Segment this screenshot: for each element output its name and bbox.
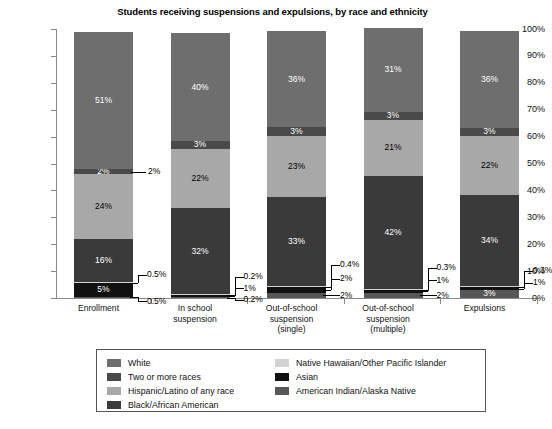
legend-label: American Indian/Alaska Native	[296, 386, 416, 396]
bar-stack[interactable]: 33%23%3%36%	[267, 29, 326, 298]
bar-segment[interactable]	[460, 195, 519, 286]
bar-segment[interactable]	[74, 169, 133, 174]
legend-label: Asian	[296, 372, 318, 382]
bar-segment[interactable]	[74, 239, 133, 282]
bar-segment[interactable]	[364, 293, 423, 298]
x-axis-label-line: suspension	[344, 314, 433, 325]
callout-leader-line	[323, 287, 331, 288]
x-axis-label-line: Enrollment	[54, 303, 143, 314]
bar-segment[interactable]	[364, 176, 423, 289]
bar-segment[interactable]	[267, 197, 326, 286]
y-axis-tick-mark	[51, 217, 56, 218]
bar-segment[interactable]	[364, 28, 423, 111]
legend-item[interactable]: Black/African American	[107, 398, 218, 411]
legend-item[interactable]: Hispanic/Latino of any race	[107, 384, 234, 397]
legend-color-swatch	[275, 387, 289, 395]
bar-segment[interactable]	[460, 287, 519, 290]
y-axis-tick-mark	[51, 83, 56, 84]
bar-segment[interactable]	[267, 286, 326, 287]
x-axis-label-line: suspension	[247, 314, 336, 325]
x-axis-label: Out-of-schoolsuspension(multiple)	[344, 303, 433, 335]
bar-stack[interactable]: 5%16%24%2%51%	[74, 29, 133, 298]
bar-segment[interactable]	[74, 283, 133, 296]
bar-segment[interactable]	[74, 174, 133, 239]
bar-segment[interactable]	[460, 290, 519, 298]
callout-leader-line	[331, 279, 340, 280]
callout-leader-line	[428, 280, 429, 291]
y-axis-line	[56, 29, 57, 299]
bar-segment[interactable]	[74, 32, 133, 169]
legend-item[interactable]: Asian	[275, 370, 318, 383]
bar-segment[interactable]	[364, 290, 423, 293]
bar-segment[interactable]	[267, 287, 326, 292]
bar-segment[interactable]	[267, 31, 326, 128]
bar-segment[interactable]	[460, 31, 519, 128]
x-axis-label-line: In school	[151, 303, 240, 314]
bar-stack[interactable]: 3%34%22%3%36%	[460, 29, 519, 298]
bar-segment[interactable]	[74, 282, 133, 283]
callout-leader-line	[420, 291, 428, 292]
bar-segment[interactable]	[171, 33, 230, 141]
callout-leader-line	[138, 275, 147, 276]
legend-item[interactable]: White	[107, 356, 151, 369]
bar-segment[interactable]	[267, 136, 326, 198]
legend-item[interactable]: Native Hawaiian/Other Pacific Islander	[275, 356, 446, 369]
x-axis-label: Out-of-schoolsuspension(single)	[247, 303, 336, 335]
bar-segment[interactable]	[171, 208, 230, 294]
bar-segment-callout-label: 2%	[437, 291, 449, 300]
bar-stack[interactable]: 32%22%3%40%	[171, 29, 230, 298]
legend-label: Native Hawaiian/Other Pacific Islander	[296, 358, 446, 368]
callout-leader-line	[323, 295, 331, 296]
bar-segment[interactable]	[460, 128, 519, 136]
y-axis-tick-mark	[51, 56, 56, 57]
callout-leader-line	[235, 288, 244, 289]
y-axis-tick-mark	[51, 137, 56, 138]
callout-leader-line	[420, 295, 428, 296]
y-axis-tick-mark	[51, 190, 56, 191]
bar-segment[interactable]	[460, 136, 519, 195]
bar-segment-callout-label: 0.3%	[437, 263, 456, 272]
legend-label: Black/African American	[128, 400, 218, 410]
legend-label: Two or more races	[128, 372, 201, 382]
callout-leader-line	[138, 275, 139, 283]
bar-segment[interactable]	[171, 149, 230, 208]
callout-leader-line	[524, 283, 525, 289]
chart-legend: WhiteTwo or more racesHispanic/Latino of…	[96, 349, 486, 412]
bar-segment[interactable]	[267, 127, 326, 135]
bar-segment[interactable]	[364, 112, 423, 120]
callout-leader-line	[428, 295, 429, 296]
y-axis-tick-mark	[51, 110, 56, 111]
legend-item[interactable]: Two or more races	[107, 370, 201, 383]
bar-segment[interactable]	[364, 120, 423, 176]
callout-leader-line	[428, 295, 437, 296]
y-axis-tick-mark	[51, 29, 56, 30]
callout-leader-line	[235, 298, 236, 300]
x-axis-label: Enrollment	[54, 303, 143, 314]
bar-stack[interactable]: 42%21%3%31%	[364, 29, 423, 298]
callout-leader-line	[524, 283, 533, 284]
callout-leader-line	[227, 298, 235, 299]
callout-leader-line	[524, 271, 533, 272]
bar-segment-callout-label: 2%	[340, 274, 352, 283]
callout-leader-line	[331, 265, 340, 266]
callout-leader-line	[323, 290, 331, 291]
bar-segment-callout-label: 2%	[148, 167, 160, 176]
callout-leader-line	[130, 297, 138, 298]
legend-item[interactable]: American Indian/Alaska Native	[275, 384, 416, 397]
y-axis-tick-mark	[51, 244, 56, 245]
y-axis-tick-mark	[51, 271, 56, 272]
bar-segment[interactable]	[171, 141, 230, 149]
bar-segment[interactable]	[267, 293, 326, 298]
legend-color-swatch	[107, 401, 121, 409]
bar-segment-callout-label: 1%	[437, 276, 449, 285]
chart-title: Students receiving suspensions and expul…	[0, 6, 545, 17]
legend-color-swatch	[107, 359, 121, 367]
legend-color-swatch	[275, 373, 289, 381]
bar-segment-callout-label: 0.2%	[244, 272, 263, 281]
callout-leader-line	[516, 289, 524, 290]
x-axis-label-line: (multiple)	[344, 324, 433, 335]
bar-segment[interactable]	[171, 295, 230, 298]
callout-leader-line	[428, 280, 437, 281]
bar-segment[interactable]	[74, 297, 133, 298]
callout-leader-line	[428, 268, 437, 269]
